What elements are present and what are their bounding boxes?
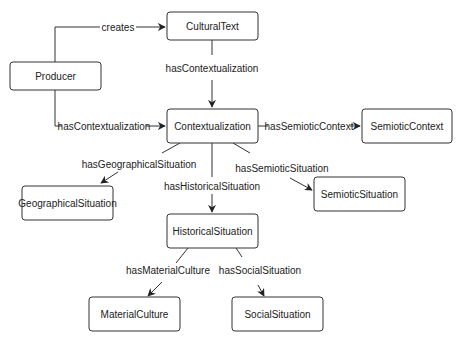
edge-label-hassemioticsituation: hasSemioticSituation [235,163,328,174]
node-label: MaterialCulture [101,309,169,320]
node-label: Producer [35,71,76,82]
node-label: SocialSituation [244,309,310,320]
node-historicalsituation[interactable]: HistoricalSituation [167,214,258,248]
node-label: GeographicalSituation [18,198,116,209]
edge-label-producer-hascontextualization: hasContextualization [58,121,151,132]
edge-label-creates: creates [102,22,135,33]
node-label: HistoricalSituation [172,226,252,237]
edge-label-hassemioticcontext: hasSemioticContext [265,121,354,132]
edge-label-hashistoricalsituation: hasHistoricalSituation [164,181,260,192]
node-semioticcontext[interactable]: SemioticContext [362,109,452,143]
edge-label-hasmaterialculture: hasMaterialCulture [126,265,210,276]
node-contextualization[interactable]: Contextualization [167,109,258,143]
node-label: SemioticContext [371,121,444,132]
node-culturaltext[interactable]: CulturalText [167,12,258,40]
edge-label-hasgeographicalsituation: hasGeographicalSituation [82,159,197,170]
node-socialsituation[interactable]: SocialSituation [232,297,323,331]
node-label: SemioticSituation [321,189,398,200]
node-materialculture[interactable]: MaterialCulture [89,297,180,331]
ontology-diagram: creates hasContextualization hasContextu… [0,0,462,342]
node-geographicalsituation[interactable]: GeographicalSituation [18,186,116,220]
edge-label-culturaltext-hascontextualization: hasContextualization [166,63,259,74]
edge-label-hassocialsituation: hasSocialSituation [219,265,301,276]
node-producer[interactable]: Producer [10,62,101,90]
node-semioticsituation[interactable]: SemioticSituation [314,177,405,211]
node-label: Contextualization [174,121,251,132]
node-label: CulturalText [186,21,239,32]
